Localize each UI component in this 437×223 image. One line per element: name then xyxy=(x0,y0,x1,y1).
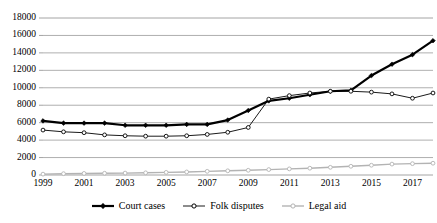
x-axis-tick-label: 2003 xyxy=(105,179,145,189)
data-point-marker xyxy=(287,167,291,171)
data-point-marker xyxy=(82,172,86,176)
series-line xyxy=(43,41,433,126)
series-legal-aid xyxy=(41,161,435,176)
data-point-marker xyxy=(205,169,209,173)
data-point-marker xyxy=(308,166,312,170)
data-point-marker xyxy=(164,170,168,174)
y-axis-tick-label: 16000 xyxy=(0,30,36,40)
data-point-marker xyxy=(123,123,128,128)
chart-figure: Court casesFolk disputesLegal aid 020004… xyxy=(0,0,437,223)
data-point-marker xyxy=(164,123,169,128)
data-point-marker xyxy=(411,162,415,166)
line-marker-open-circle-icon xyxy=(182,201,206,211)
y-axis-tick-label: 4000 xyxy=(0,135,36,145)
data-point-marker xyxy=(82,121,87,126)
data-point-marker xyxy=(144,134,148,138)
y-axis-tick-label: 8000 xyxy=(0,100,36,110)
x-axis-tick-label: 2013 xyxy=(310,179,350,189)
x-axis-tick-label: 2009 xyxy=(228,179,268,189)
data-point-marker xyxy=(390,92,394,96)
data-point-marker xyxy=(370,90,374,94)
x-axis-tick-label: 2011 xyxy=(269,179,309,189)
data-point-marker xyxy=(328,89,332,93)
data-point-marker xyxy=(41,128,45,132)
series-court-cases xyxy=(41,38,436,127)
y-axis-tick-label: 12000 xyxy=(0,65,36,75)
data-point-marker xyxy=(62,130,66,134)
data-point-marker xyxy=(267,168,271,172)
data-point-marker xyxy=(185,134,189,138)
x-axis-tick-label: 2001 xyxy=(64,179,104,189)
data-point-marker xyxy=(349,89,353,93)
data-point-marker xyxy=(267,97,271,101)
data-point-marker xyxy=(41,172,45,176)
y-axis-tick-label: 2000 xyxy=(0,153,36,163)
data-point-marker xyxy=(390,162,394,166)
data-point-marker xyxy=(185,170,189,174)
data-point-marker xyxy=(103,133,107,137)
data-point-marker xyxy=(308,91,312,95)
legend-item-label: Folk disputes xyxy=(210,201,264,211)
data-point-marker xyxy=(144,171,148,175)
data-point-marker xyxy=(349,164,353,168)
series-line xyxy=(43,163,433,174)
x-axis-tick-label: 2005 xyxy=(146,179,186,189)
data-point-marker xyxy=(431,161,435,165)
data-point-marker xyxy=(61,121,66,126)
data-point-marker xyxy=(246,126,250,130)
y-axis-tick-label: 10000 xyxy=(0,83,36,93)
data-point-marker xyxy=(103,171,107,175)
data-point-marker xyxy=(123,171,127,175)
data-point-marker xyxy=(246,168,250,172)
data-point-marker xyxy=(328,165,332,169)
legend-item-court-cases[interactable]: Court cases xyxy=(91,201,165,211)
data-point-marker xyxy=(226,169,230,173)
data-point-marker xyxy=(102,121,107,126)
data-point-marker xyxy=(82,131,86,135)
legend-item-label: Court cases xyxy=(119,201,165,211)
line-marker-gray-icon xyxy=(281,201,305,211)
data-point-marker xyxy=(164,134,168,138)
data-point-marker xyxy=(411,96,415,100)
data-point-marker xyxy=(370,163,374,167)
x-axis-tick-label: 2015 xyxy=(351,179,391,189)
data-point-marker xyxy=(205,133,209,137)
y-axis-tick-label: 18000 xyxy=(0,13,36,23)
legend-item-label: Legal aid xyxy=(309,201,346,211)
data-point-marker xyxy=(62,172,66,176)
x-axis-tick-label: 2007 xyxy=(187,179,227,189)
data-point-marker xyxy=(431,91,435,95)
data-point-marker xyxy=(143,123,148,128)
y-axis-tick-label: 6000 xyxy=(0,118,36,128)
legend-item-folk-disputes[interactable]: Folk disputes xyxy=(182,201,264,211)
y-axis-tick-label: 14000 xyxy=(0,48,36,58)
data-point-marker xyxy=(123,134,127,138)
data-point-marker xyxy=(226,130,230,134)
x-axis-tick-label: 2017 xyxy=(392,179,432,189)
legend-item-legal-aid[interactable]: Legal aid xyxy=(281,201,346,211)
series-line xyxy=(43,91,433,136)
x-axis-tick-label: 1999 xyxy=(23,179,63,189)
chart-plot-area xyxy=(0,0,437,223)
line-marker-filled-diamond-icon xyxy=(91,201,115,211)
chart-legend: Court casesFolk disputesLegal aid xyxy=(0,196,437,216)
data-point-marker xyxy=(287,94,291,98)
series-folk-disputes xyxy=(41,89,435,138)
